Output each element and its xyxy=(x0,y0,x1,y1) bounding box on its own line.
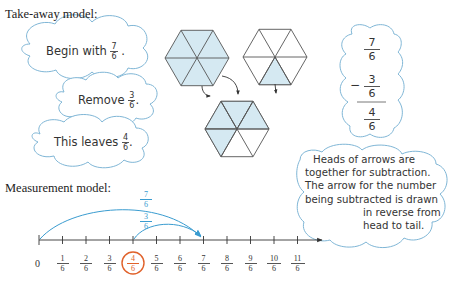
hexagon-partial xyxy=(243,29,307,84)
measurement-arrows xyxy=(40,210,201,239)
tick-label-zero: 0 xyxy=(35,258,40,269)
hexagon-whole xyxy=(165,30,229,85)
arrow-seven-sixths xyxy=(40,210,201,239)
tick-label: 76 xyxy=(198,254,210,273)
tick-label: 66 xyxy=(174,254,186,273)
fraction: 76 xyxy=(110,42,117,61)
tick-label: 96 xyxy=(245,254,257,273)
cloud-begin-text: Begin with 76 . xyxy=(46,42,125,61)
takeaway-heading: Take-away model: xyxy=(5,7,98,22)
hexagon-result xyxy=(205,101,269,156)
cloud-remove-text: Remove 36. xyxy=(78,91,139,110)
tick-label: 56 xyxy=(151,254,163,273)
tick-label: 26 xyxy=(80,254,92,273)
calc-result: 4 6 xyxy=(364,106,380,133)
calc-operator: − xyxy=(350,78,360,92)
cloud-leaves-text: This leaves 46. xyxy=(54,133,133,152)
calc-minuend: 7 6 xyxy=(364,36,380,63)
measurement-heading: Measurement model: xyxy=(5,181,111,196)
calc-subtrahend: 3 6 xyxy=(364,73,380,100)
tick-label-highlighted: 46 xyxy=(127,254,139,273)
tick-label: 16 xyxy=(57,254,69,273)
arrow-label-seven-sixths: 7 6 xyxy=(140,190,152,209)
tick-label: 106 xyxy=(267,254,281,273)
tick-label: 36 xyxy=(104,254,116,273)
tick-label: 86 xyxy=(221,254,233,273)
note-text: Heads of arrows are together for subtrac… xyxy=(305,153,445,232)
arrow-label-three-sixths: 3 6 xyxy=(140,212,152,231)
tick-label: 116 xyxy=(291,254,305,273)
number-line xyxy=(39,235,322,245)
